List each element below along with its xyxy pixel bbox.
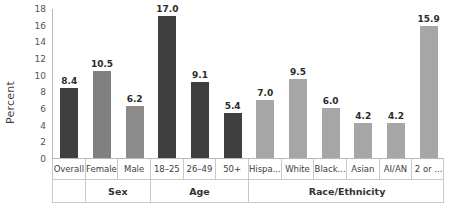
y-axis-tick-4: 4 xyxy=(24,121,46,130)
bar xyxy=(191,82,209,158)
bar-value-label: 17.0 xyxy=(151,4,184,14)
percent-bar-chart: Percent 181614121086420 8.410.56.217.09.… xyxy=(0,0,449,224)
y-axis-tick-14: 14 xyxy=(24,38,46,47)
bar-slot: 9.5 xyxy=(282,9,315,158)
bar-slot: 10.5 xyxy=(86,9,119,158)
bar-value-label: 4.2 xyxy=(347,111,380,121)
y-axis-tick-10: 10 xyxy=(24,71,46,80)
bar-value-label: 10.5 xyxy=(86,59,119,69)
bar xyxy=(354,123,372,158)
bar xyxy=(289,79,307,158)
bar-slot: 7.0 xyxy=(249,9,282,158)
category-cell: Male xyxy=(118,159,151,179)
y-axis-tick-6: 6 xyxy=(24,105,46,114)
bar-value-label: 5.4 xyxy=(216,101,249,111)
y-axis-tick-18: 18 xyxy=(24,5,46,14)
bar xyxy=(224,113,242,158)
bar-value-label: 4.2 xyxy=(380,111,413,121)
category-cell: 26–49 xyxy=(184,159,217,179)
y-axis-tick-12: 12 xyxy=(24,55,46,64)
y-axis-title: Percent xyxy=(2,56,18,148)
category-axis-table: OverallFemaleMale18–2526–4950+Hispa...Wh… xyxy=(52,159,444,203)
category-cell: 18–25 xyxy=(151,159,184,179)
bar-value-label: 9.5 xyxy=(282,67,315,77)
y-axis-tick-labels: 181614121086420 xyxy=(24,9,46,159)
group-cell-sex: Sex xyxy=(86,180,151,202)
bar xyxy=(60,88,78,158)
category-cell: White xyxy=(282,159,315,179)
category-cell: Female xyxy=(86,159,119,179)
category-cell: 2 or ... xyxy=(412,159,445,179)
bar xyxy=(420,26,438,159)
y-axis-tick-8: 8 xyxy=(24,88,46,97)
bar-value-label: 6.2 xyxy=(118,94,151,104)
bar xyxy=(93,71,111,159)
bar-slot: 9.1 xyxy=(184,9,217,158)
bar-value-label: 6.0 xyxy=(314,96,347,106)
category-cell: Asian xyxy=(347,159,380,179)
group-cell-blank xyxy=(53,180,86,202)
bar xyxy=(256,100,274,158)
group-label-row: SexAgeRace/Ethnicity xyxy=(53,180,443,202)
bar-slot: 5.4 xyxy=(216,9,249,158)
bar-slot: 6.0 xyxy=(314,9,347,158)
bar-slot: 4.2 xyxy=(347,9,380,158)
bars-layer: 8.410.56.217.09.15.47.09.56.04.24.215.9 xyxy=(53,9,444,158)
bar-slot: 15.9 xyxy=(412,9,445,158)
group-cell-age: Age xyxy=(151,180,249,202)
category-cell: 50+ xyxy=(216,159,249,179)
plot-area: 8.410.56.217.09.15.47.09.56.04.24.215.9 xyxy=(52,9,444,159)
category-cell: AI/AN xyxy=(380,159,413,179)
bar-slot: 17.0 xyxy=(151,9,184,158)
bar-value-label: 8.4 xyxy=(53,76,86,86)
bar-value-label: 15.9 xyxy=(412,14,445,24)
category-cell: Black... xyxy=(314,159,347,179)
y-axis-title-label: Percent xyxy=(4,81,17,124)
bar xyxy=(158,16,176,158)
category-cell: Hispa... xyxy=(249,159,282,179)
bar xyxy=(322,108,340,158)
bar-slot: 6.2 xyxy=(118,9,151,158)
bar-slot: 4.2 xyxy=(380,9,413,158)
y-axis-tick-16: 16 xyxy=(24,21,46,30)
y-axis-tick-0: 0 xyxy=(24,155,46,164)
bar-slot: 8.4 xyxy=(53,9,86,158)
category-cell: Overall xyxy=(53,159,86,179)
bar xyxy=(387,123,405,158)
bar-value-label: 9.1 xyxy=(184,70,217,80)
group-cell-race-ethnicity: Race/Ethnicity xyxy=(249,180,445,202)
y-axis-tick-2: 2 xyxy=(24,138,46,147)
bar-value-label: 7.0 xyxy=(249,88,282,98)
category-label-row: OverallFemaleMale18–2526–4950+Hispa...Wh… xyxy=(53,159,443,180)
bar xyxy=(126,106,144,158)
